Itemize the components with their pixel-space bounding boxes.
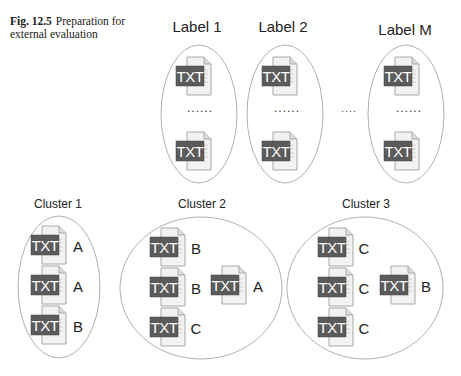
txt-file-icon: TXT bbox=[150, 308, 185, 346]
txt-label: TXT bbox=[32, 237, 59, 254]
cluster-2: Cluster 2TXTBTXTBTXTCTXTA bbox=[120, 197, 282, 359]
ellipsis-dots: ...... bbox=[187, 101, 213, 115]
document-class-tag: A bbox=[253, 278, 263, 295]
txt-label: TXT bbox=[319, 319, 346, 336]
txt-file-icon: TXT bbox=[262, 132, 297, 170]
document-class-tag: C bbox=[359, 320, 370, 337]
txt-file-icon: TXT bbox=[150, 228, 185, 266]
label-group-3: Label MTXTTXT...... bbox=[368, 21, 444, 183]
document-class-tag: A bbox=[73, 238, 83, 255]
label-group-title: Label M bbox=[378, 21, 431, 38]
between-groups-ellipsis: .... bbox=[341, 102, 357, 114]
txt-file-icon: TXT bbox=[150, 268, 185, 306]
ellipsis-dots: ...... bbox=[274, 101, 300, 115]
document-class-tag: C bbox=[359, 280, 370, 297]
txt-file-icon: TXT bbox=[176, 57, 211, 95]
txt-file-icon: TXT bbox=[380, 266, 415, 304]
label-group-1: Label 1TXTTXT...... bbox=[161, 18, 237, 183]
txt-file-icon: TXT bbox=[262, 57, 297, 95]
txt-label: TXT bbox=[263, 143, 290, 160]
label-group-title: Label 1 bbox=[172, 18, 221, 35]
txt-file-icon: TXT bbox=[31, 266, 66, 304]
txt-label: TXT bbox=[381, 277, 408, 294]
txt-label: TXT bbox=[319, 239, 346, 256]
txt-label: TXT bbox=[319, 279, 346, 296]
txt-file-icon: TXT bbox=[176, 132, 211, 170]
document-class-tag: A bbox=[73, 278, 83, 295]
txt-file-icon: TXT bbox=[384, 132, 419, 170]
cluster-title: Cluster 3 bbox=[342, 197, 390, 211]
cluster-title: Cluster 1 bbox=[34, 197, 82, 211]
txt-file-icon: TXT bbox=[384, 57, 419, 95]
cluster-1: Cluster 1TXTATXTATXTB bbox=[18, 197, 100, 358]
txt-label: TXT bbox=[151, 279, 178, 296]
txt-label: TXT bbox=[263, 68, 290, 85]
txt-file-icon: TXT bbox=[31, 306, 66, 344]
txt-file-icon: TXT bbox=[31, 226, 66, 264]
cluster-title: Cluster 2 bbox=[178, 197, 226, 211]
txt-label: TXT bbox=[151, 319, 178, 336]
txt-file-icon: TXT bbox=[318, 228, 353, 266]
evaluation-diagram: Label 1TXTTXT......Label 2TXTTXT......La… bbox=[0, 0, 461, 376]
label-group-title: Label 2 bbox=[258, 18, 307, 35]
document-class-tag: B bbox=[191, 240, 201, 257]
label-group-2: Label 2TXTTXT...... bbox=[247, 18, 323, 183]
txt-label: TXT bbox=[177, 143, 204, 160]
ellipsis-dots: ...... bbox=[396, 101, 422, 115]
txt-label: TXT bbox=[385, 143, 412, 160]
document-class-tag: C bbox=[359, 240, 370, 257]
txt-label: TXT bbox=[151, 239, 178, 256]
document-class-tag: C bbox=[191, 320, 202, 337]
txt-label: TXT bbox=[212, 277, 239, 294]
txt-file-icon: TXT bbox=[318, 308, 353, 346]
document-class-tag: B bbox=[191, 280, 201, 297]
txt-file-icon: TXT bbox=[211, 266, 246, 304]
document-class-tag: B bbox=[421, 278, 431, 295]
txt-label: TXT bbox=[177, 68, 204, 85]
txt-label: TXT bbox=[385, 68, 412, 85]
document-class-tag: B bbox=[73, 318, 83, 335]
txt-label: TXT bbox=[32, 317, 59, 334]
txt-file-icon: TXT bbox=[318, 268, 353, 306]
txt-label: TXT bbox=[32, 277, 59, 294]
cluster-3: Cluster 3TXTCTXTCTXTCTXTB bbox=[287, 197, 443, 359]
